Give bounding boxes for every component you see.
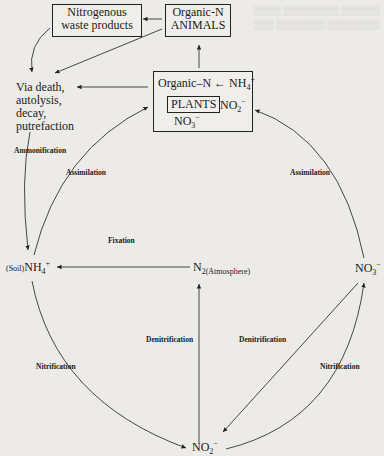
- arrow-assimilation-right: [255, 110, 364, 258]
- assimilation-right-label: Assimilation: [290, 168, 330, 177]
- animals-box: Organic-N ANIMALS: [165, 4, 231, 37]
- ammonification-label: Ammonification: [14, 146, 66, 155]
- plants-no2: NO2−: [220, 99, 246, 112]
- waste-line2: waste products: [53, 19, 141, 32]
- animals-line2: ANIMALS: [166, 19, 230, 32]
- soil-nh4-node: (Soil)NH4+: [6, 261, 50, 275]
- denitrification-left-label: Denitrification: [146, 335, 193, 344]
- arrow-denitrification-right: [223, 283, 358, 432]
- fixation-label: Fixation: [108, 236, 135, 245]
- waste-products-box: Nitrogenous waste products: [52, 4, 142, 37]
- death-decay-label: Via death, autolysis, decay, putrefactio…: [16, 81, 74, 133]
- plants-organic-n: Organic–N ← NH4+: [158, 77, 255, 90]
- assimilation-left-label: Assimilation: [66, 168, 106, 177]
- death-line4: putrefaction: [16, 120, 74, 133]
- n2-atmosphere-node: N2(Atmosphere): [193, 261, 250, 274]
- nitrification-left-label: Nitrification: [36, 362, 76, 371]
- no2-node: NO2−: [192, 441, 218, 454]
- arrows-layer: [0, 0, 384, 456]
- plants-inner-box: PLANTS: [167, 96, 220, 113]
- denitrification-right-label: Denitrification: [239, 335, 286, 344]
- plants-box: Organic–N ← NH4+ PLANTS NO2− NO3−: [153, 71, 253, 132]
- nitrification-right-label: Nitrification: [320, 362, 360, 371]
- arrow-waste-to-death: [31, 28, 50, 72]
- plants-no3: NO3−: [174, 115, 200, 128]
- no3-node: NO3−: [355, 262, 381, 275]
